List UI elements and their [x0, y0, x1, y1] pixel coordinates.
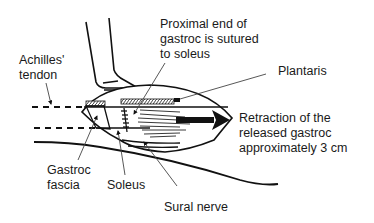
- label-line: Proximal end of: [160, 17, 259, 32]
- label-achilles-tendon: Achilles' tendon: [19, 53, 64, 83]
- diagram-canvas: Proximal end of gastroc is sutured to so…: [0, 0, 374, 223]
- fascia-hatch-left: [86, 101, 105, 106]
- label-line: approximately 3 cm: [239, 141, 347, 156]
- label-line: gastroc is sutured: [160, 32, 259, 47]
- label-plantaris: Plantaris: [278, 64, 327, 79]
- label-line: fascia: [47, 178, 91, 193]
- label-proximal-end: Proximal end of gastroc is sutured to so…: [160, 17, 259, 62]
- label-soleus: Soleus: [107, 178, 145, 193]
- label-line: tendon: [19, 68, 64, 83]
- fascia-hatch-right: [121, 99, 174, 104]
- retractor-instrument: [86, 18, 139, 90]
- label-line: Gastroc: [47, 163, 91, 178]
- label-sural-nerve: Sural nerve: [164, 200, 228, 215]
- label-line: released gastroc: [239, 126, 347, 141]
- label-line: Achilles': [19, 53, 64, 68]
- label-line: Sural nerve: [164, 200, 228, 215]
- label-line: Soleus: [107, 178, 145, 193]
- label-retraction: Retraction of the released gastroc appro…: [239, 111, 347, 156]
- label-line: to soleus: [160, 47, 259, 62]
- label-line: Retraction of the: [239, 111, 347, 126]
- label-gastroc-fascia: Gastroc fascia: [47, 163, 91, 193]
- label-line: Plantaris: [278, 64, 327, 79]
